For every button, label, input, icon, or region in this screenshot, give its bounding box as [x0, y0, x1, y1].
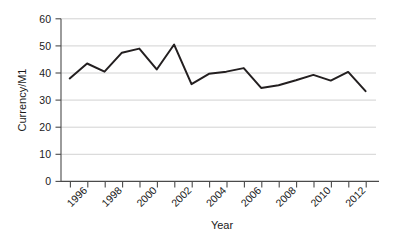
y-tick-label-60: 60 [39, 13, 51, 25]
y-tick-label-20: 20 [39, 121, 51, 133]
y-tick-label-40: 40 [39, 67, 51, 79]
chart-container: 60 50 40 30 20 10 0 Currency/M1 [0, 0, 402, 242]
y-tick-label-10: 10 [39, 148, 51, 160]
y-axis-title: Currency/M1 [16, 69, 28, 132]
y-tick-label-0: 0 [45, 175, 51, 187]
line-chart: 60 50 40 30 20 10 0 Currency/M1 [0, 0, 402, 242]
y-tick-label-50: 50 [39, 40, 51, 52]
chart-background [0, 0, 402, 242]
x-axis-title: Year [211, 219, 234, 231]
y-tick-label-30: 30 [39, 94, 51, 106]
